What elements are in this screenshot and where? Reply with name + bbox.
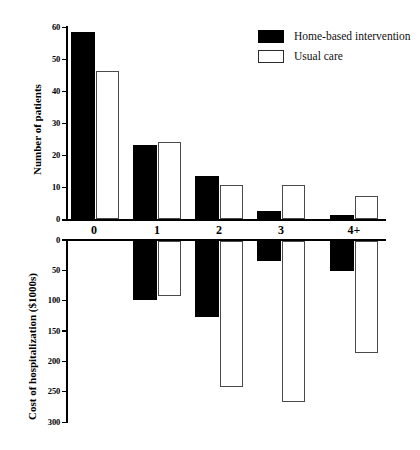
top-ytick-mark-20 bbox=[62, 155, 66, 156]
bar-top-hbi-0 bbox=[71, 32, 95, 219]
top-ytick-mark-50 bbox=[62, 59, 66, 60]
top-ytick-label-60: 60 bbox=[46, 22, 60, 32]
category-label-3: 3 bbox=[263, 223, 299, 238]
category-label-4: 4+ bbox=[336, 223, 372, 238]
bar-bottom-hbi-3 bbox=[257, 241, 281, 261]
legend-swatch-filled-icon bbox=[258, 30, 284, 43]
bar-top-hbi-1 bbox=[133, 145, 157, 219]
top-ytick-label-10: 10 bbox=[46, 182, 60, 192]
top-y-axis-label: Number of patients bbox=[31, 84, 43, 175]
bottom-ytick-label-0: 0 bbox=[44, 235, 60, 245]
figure-two-panel-bar-chart: Number of patients 60 50 40 30 20 10 0 0 bbox=[0, 0, 420, 450]
bar-top-uc-3 bbox=[282, 185, 305, 219]
category-label-1: 1 bbox=[139, 223, 175, 238]
bottom-ytick-label-300: 300 bbox=[40, 417, 60, 427]
bottom-ytick-label-150: 150 bbox=[40, 326, 60, 336]
top-ytick-label-30: 30 bbox=[46, 118, 60, 128]
bar-bottom-hbi-4 bbox=[330, 241, 354, 271]
top-x-axis-line bbox=[66, 219, 386, 221]
top-y-axis-line bbox=[66, 26, 68, 220]
bottom-ytick-label-200: 200 bbox=[40, 356, 60, 366]
bottom-ytick-mark-250 bbox=[62, 391, 66, 392]
bar-top-hbi-2 bbox=[195, 176, 219, 219]
bottom-ytick-mark-300 bbox=[62, 422, 66, 423]
legend-label-usual-care: Usual care bbox=[294, 50, 343, 62]
top-ytick-mark-0 bbox=[62, 219, 66, 220]
bottom-ytick-mark-100 bbox=[62, 300, 66, 301]
bar-bottom-uc-2 bbox=[220, 241, 243, 387]
top-ytick-label-40: 40 bbox=[46, 86, 60, 96]
bar-bottom-hbi-2 bbox=[195, 241, 219, 317]
bottom-y-axis-label: Cost of hospitalization ($1000s) bbox=[26, 273, 38, 420]
top-ytick-mark-10 bbox=[62, 187, 66, 188]
top-ytick-label-20: 20 bbox=[46, 150, 60, 160]
bottom-ytick-label-100: 100 bbox=[40, 295, 60, 305]
bottom-ytick-mark-150 bbox=[62, 330, 66, 331]
bottom-ytick-label-250: 250 bbox=[40, 386, 60, 396]
bottom-ytick-mark-0 bbox=[62, 239, 66, 240]
bar-top-uc-4 bbox=[355, 196, 378, 220]
legend-item-home-based-intervention: Home-based intervention bbox=[258, 29, 411, 43]
bottom-ytick-label-50: 50 bbox=[44, 265, 60, 275]
bar-bottom-hbi-1 bbox=[133, 241, 157, 300]
bar-bottom-uc-1 bbox=[158, 241, 181, 296]
top-ytick-label-50: 50 bbox=[46, 54, 60, 64]
bar-top-hbi-3 bbox=[257, 211, 281, 219]
bottom-ytick-mark-200 bbox=[62, 361, 66, 362]
legend-label-home-based-intervention: Home-based intervention bbox=[294, 30, 411, 42]
top-ytick-mark-60 bbox=[62, 27, 66, 28]
bottom-ytick-mark-50 bbox=[62, 270, 66, 271]
top-ytick-mark-40 bbox=[62, 91, 66, 92]
bar-bottom-uc-3 bbox=[282, 241, 305, 402]
bar-top-uc-0 bbox=[96, 71, 119, 219]
category-label-0: 0 bbox=[76, 223, 112, 238]
top-ytick-mark-30 bbox=[62, 123, 66, 124]
bar-top-uc-1 bbox=[158, 142, 181, 219]
top-ytick-label-0: 0 bbox=[46, 214, 60, 224]
chart-legend: Home-based intervention Usual care bbox=[258, 29, 411, 69]
bar-top-uc-2 bbox=[220, 185, 243, 219]
legend-item-usual-care: Usual care bbox=[258, 49, 411, 63]
bar-bottom-uc-4 bbox=[355, 241, 378, 353]
bar-top-hbi-4 bbox=[330, 215, 354, 219]
bottom-y-axis-line bbox=[66, 239, 68, 423]
category-label-2: 2 bbox=[201, 223, 237, 238]
legend-swatch-outlined-icon bbox=[258, 50, 284, 63]
